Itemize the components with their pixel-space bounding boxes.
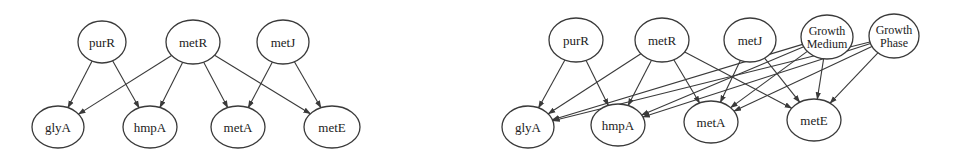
- edge-right-purR-to-glyA: [539, 60, 565, 108]
- node-label-line2: Medium: [807, 37, 848, 51]
- node-label: hmpA: [602, 118, 635, 133]
- node-right-metE: metE: [787, 99, 841, 141]
- node-right-metA: metA: [684, 101, 738, 143]
- node-left-hmpA: hmpA: [123, 106, 177, 148]
- node-label: metE: [800, 113, 827, 128]
- node-label: metA: [224, 120, 253, 135]
- node-left-metE: metE: [304, 106, 360, 148]
- node-right-metR: metR: [635, 18, 689, 62]
- nodes-layer: purRmetRmetJglyAhmpAmetAmetEpurRmetRmetJ…: [32, 14, 919, 148]
- edge-left-purR-to-glyA: [68, 61, 92, 108]
- edge-left-metJ-to-metE: [294, 62, 321, 108]
- node-right-metJ: metJ: [724, 18, 776, 62]
- node-left-purR: purR: [78, 21, 126, 63]
- node-label: metA: [697, 115, 726, 130]
- node-right-glyA: glyA: [502, 106, 554, 148]
- edge-right-GrowthPhase-to-metE: [830, 53, 878, 103]
- node-left-metR: metR: [166, 20, 220, 64]
- node-left-glyA: glyA: [32, 106, 84, 148]
- node-label: metJ: [738, 33, 763, 48]
- edge-left-metR-to-metA: [204, 62, 228, 107]
- node-label: purR: [563, 33, 589, 48]
- node-right-GrowthMedium: GrowthMedium: [801, 15, 853, 59]
- edge-left-metR-to-hmpA: [160, 62, 183, 107]
- node-label: hmpA: [134, 120, 167, 135]
- node-label-line1: Growth: [876, 23, 913, 37]
- node-label: metJ: [271, 35, 296, 50]
- node-right-purR: purR: [549, 18, 603, 62]
- edge-left-metR-to-glyA: [79, 56, 172, 115]
- bayesian-network-figure: purRmetRmetJglyAhmpAmetAmetEpurRmetRmetJ…: [0, 0, 953, 159]
- edge-left-metJ-to-metA: [248, 62, 272, 108]
- node-label: metR: [648, 33, 676, 48]
- edge-right-GrowthMedium-to-metE: [817, 59, 823, 99]
- node-label-line2: Phase: [880, 36, 908, 50]
- node-label: glyA: [45, 120, 72, 135]
- edge-right-metJ-to-metE: [765, 58, 800, 102]
- node-left-metJ: metJ: [257, 20, 309, 64]
- node-right-hmpA: hmpA: [591, 104, 645, 146]
- edge-right-purR-to-hmpA: [586, 60, 608, 105]
- node-label: metE: [318, 120, 345, 135]
- node-label: metR: [179, 35, 207, 50]
- node-left-metA: metA: [211, 106, 265, 148]
- node-label: glyA: [515, 120, 542, 135]
- node-label: purR: [89, 35, 115, 50]
- node-label-line1: Growth: [809, 24, 846, 38]
- node-right-GrowthPhase: GrowthPhase: [869, 14, 919, 58]
